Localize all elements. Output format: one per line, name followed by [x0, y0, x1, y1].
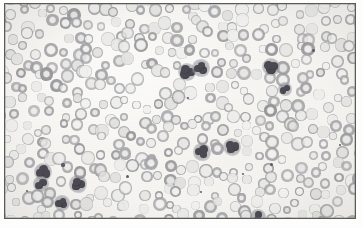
red-blood-cell [205, 93, 215, 103]
red-blood-cell [264, 184, 275, 195]
red-blood-cell [213, 197, 222, 206]
red-blood-cell [136, 5, 146, 15]
red-blood-cell [144, 156, 158, 170]
red-blood-cell [176, 165, 187, 176]
red-blood-cell [186, 160, 199, 173]
red-blood-cell [71, 17, 82, 28]
red-blood-cell [330, 120, 342, 132]
red-blood-cell [199, 164, 213, 178]
red-blood-cell [323, 102, 334, 113]
red-blood-cell [301, 54, 312, 65]
red-blood-cell [272, 35, 280, 43]
red-blood-cell [119, 181, 133, 195]
red-blood-cell [341, 161, 351, 171]
red-blood-cell [16, 172, 29, 185]
red-blood-cell [40, 67, 54, 81]
red-blood-cell [243, 93, 255, 105]
red-blood-cell [318, 162, 327, 171]
wbc-nucleus-lobe [35, 182, 43, 190]
red-blood-cell [316, 68, 325, 77]
platelet [61, 163, 64, 166]
red-blood-cell [60, 119, 68, 127]
red-blood-cell [199, 48, 210, 59]
red-blood-cell [165, 4, 174, 13]
red-blood-cell [348, 182, 355, 195]
red-blood-cell [64, 34, 74, 44]
red-blood-cell [245, 163, 253, 171]
red-blood-cell [205, 83, 214, 92]
red-blood-cell [295, 187, 304, 196]
red-blood-cell [5, 9, 16, 20]
red-blood-cell [210, 111, 221, 122]
red-blood-cell [80, 52, 92, 64]
red-blood-cell [44, 106, 54, 116]
red-blood-cell [187, 184, 200, 197]
red-blood-cell [341, 96, 352, 107]
red-blood-cell [184, 86, 198, 100]
red-blood-cell [265, 43, 277, 55]
red-blood-cell [277, 4, 287, 11]
red-blood-cell [97, 22, 105, 30]
wbc-nucleus-lobe [270, 62, 278, 70]
red-blood-cell [41, 211, 50, 218]
blood-smear-field [5, 4, 355, 218]
red-blood-cell [236, 13, 250, 27]
red-blood-cell [227, 173, 237, 183]
red-blood-cell [188, 119, 198, 129]
red-blood-cell [321, 151, 331, 161]
red-blood-cell [300, 82, 312, 94]
red-blood-cell [177, 208, 189, 218]
red-blood-cell [242, 175, 251, 184]
red-blood-cell [139, 190, 151, 202]
red-blood-cell [61, 69, 75, 83]
red-blood-cell [22, 133, 34, 145]
red-blood-cell [170, 34, 183, 47]
red-blood-cell [193, 210, 204, 218]
red-blood-cell [16, 144, 25, 153]
red-blood-cell [242, 121, 251, 130]
red-blood-cell [5, 21, 12, 32]
red-blood-cell [278, 16, 288, 26]
red-blood-cell [114, 83, 126, 95]
red-blood-cell [143, 105, 152, 114]
red-blood-cell [225, 42, 233, 50]
red-blood-cell [279, 43, 293, 57]
red-blood-cell [46, 14, 59, 27]
red-blood-cell [158, 16, 171, 29]
red-blood-cell [265, 171, 277, 183]
red-blood-cell [5, 135, 11, 143]
red-blood-cell [28, 105, 40, 117]
red-blood-cell [92, 47, 103, 58]
red-blood-cell [114, 159, 126, 171]
red-blood-cell [229, 59, 238, 68]
red-blood-cell [331, 55, 344, 68]
red-blood-cell [202, 26, 213, 37]
red-blood-cell [290, 199, 298, 207]
red-blood-cell [332, 196, 343, 207]
red-blood-cell [347, 86, 355, 97]
platelet [270, 163, 273, 166]
red-blood-cell [62, 98, 71, 107]
red-blood-cell [20, 5, 29, 14]
red-blood-cell [97, 132, 106, 141]
red-blood-cell [157, 130, 169, 142]
micrograph-figure [0, 0, 363, 228]
red-blood-cell [56, 176, 67, 187]
red-blood-cell [35, 29, 44, 38]
red-blood-cell [306, 70, 315, 79]
red-blood-cell [333, 15, 342, 24]
red-blood-cell [154, 99, 164, 109]
red-blood-cell [46, 4, 56, 13]
red-blood-cell [41, 125, 51, 135]
red-blood-cell [160, 67, 170, 77]
red-blood-cell [227, 110, 240, 123]
red-blood-cell [31, 81, 42, 92]
red-blood-cell [16, 68, 26, 78]
red-blood-cell [74, 211, 82, 218]
red-blood-cell [126, 159, 139, 172]
red-blood-cell [283, 217, 293, 218]
red-blood-cell [318, 4, 331, 14]
red-blood-cell [343, 40, 355, 52]
red-blood-cell [118, 40, 130, 52]
red-blood-cell [269, 203, 280, 214]
